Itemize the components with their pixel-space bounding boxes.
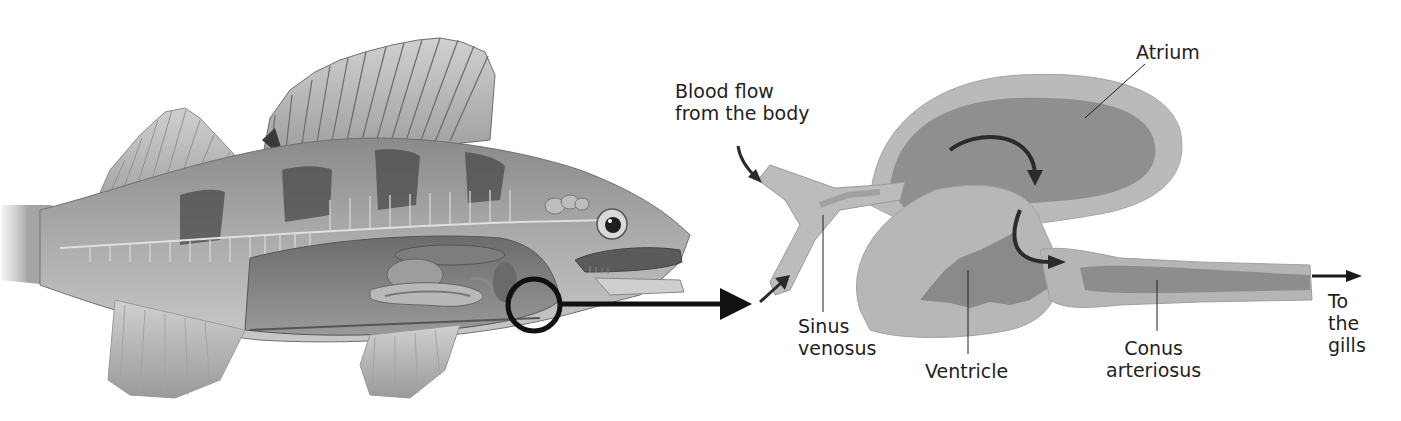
heart-cross-section bbox=[738, 64, 1362, 354]
anal-fin bbox=[360, 325, 460, 398]
label-sinus-venosus: Sinus venosus bbox=[798, 315, 876, 359]
label-to-gills: To the gills bbox=[1328, 290, 1366, 356]
label-ventricle: Ventricle bbox=[925, 360, 1008, 382]
pointer-arrowhead bbox=[720, 288, 752, 320]
label-conus-arteriosus: Conus arteriosus bbox=[1106, 337, 1201, 381]
fish-heart-diagram: Blood flow from the body Atrium Sinus ve… bbox=[0, 0, 1401, 421]
label-blood-flow: Blood flow from the body bbox=[675, 80, 809, 124]
label-atrium: Atrium bbox=[1136, 41, 1200, 63]
